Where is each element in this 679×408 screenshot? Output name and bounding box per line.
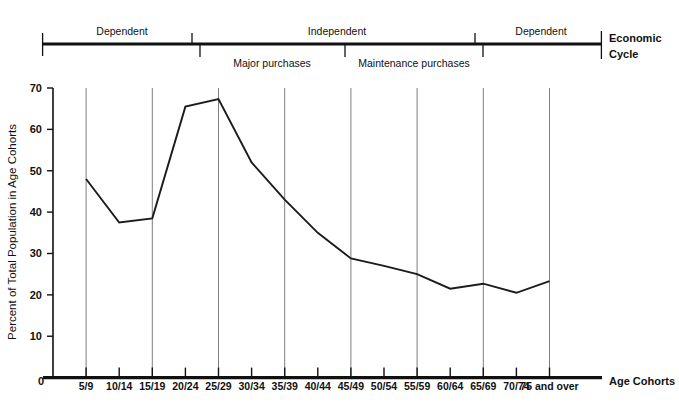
- y-tick-label-70: 70: [30, 82, 42, 94]
- x-tick-label-25-29: 25/29: [205, 380, 231, 392]
- chart-svg: Dependent Independent Dependent Major pu…: [0, 0, 679, 408]
- economic-cycle-caption-line1: Economic: [609, 32, 662, 44]
- chart-figure: Dependent Independent Dependent Major pu…: [0, 0, 679, 408]
- band-label-major-purchases: Major purchases: [233, 57, 311, 69]
- y-tick-label-10: 10: [30, 330, 42, 342]
- x-tick-label-60-64: 60/64: [437, 380, 463, 392]
- y-tick-label-50: 50: [30, 165, 42, 177]
- economic-cycle-bracket: Dependent Independent Dependent Major pu…: [42, 25, 662, 69]
- x-tick-label-55-59: 55/59: [404, 380, 430, 392]
- x-tick-label-45-49: 45/49: [338, 380, 364, 392]
- chart-axes: [43, 88, 602, 378]
- x-tick-label-20-24: 20/24: [172, 380, 198, 392]
- x-axis-origin-label: 0: [38, 375, 44, 387]
- y-axis-title: Percent of Total Population in Age Cohor…: [6, 124, 18, 340]
- x-tick-label-10-14: 10/14: [106, 380, 132, 392]
- economic-cycle-caption-line2: Cycle: [609, 48, 638, 60]
- y-tick-label-40: 40: [30, 206, 42, 218]
- x-tick-label-40-44: 40/44: [305, 380, 331, 392]
- x-tick-label-50-54: 50/54: [371, 380, 397, 392]
- x-tick-label-5-9: 5/9: [79, 380, 94, 392]
- y-tick-label-30: 30: [30, 247, 42, 259]
- x-axis-title: Age Cohorts: [609, 375, 675, 387]
- x-tick-label-35-39: 35/39: [272, 380, 298, 392]
- band-label-independent: Independent: [308, 25, 366, 37]
- y-tick-label-20: 20: [30, 289, 42, 301]
- data-series-line: [86, 99, 549, 293]
- x-tick-label-75-and-over: 75 and over: [520, 380, 578, 392]
- band-label-maintenance-purchases: Maintenance purchases: [358, 57, 470, 69]
- y-axis-ticks: 10203040506070: [30, 82, 53, 378]
- x-axis-ticks: 5/910/1415/1920/2425/2930/3435/3940/4445…: [79, 368, 579, 392]
- band-label-dependent-old: Dependent: [515, 25, 566, 37]
- y-tick-label-60: 60: [30, 123, 42, 135]
- x-tick-label-65-69: 65/69: [470, 380, 496, 392]
- band-label-dependent-young: Dependent: [96, 25, 147, 37]
- x-tick-label-30-34: 30/34: [238, 380, 264, 392]
- x-tick-label-15-19: 15/19: [139, 380, 165, 392]
